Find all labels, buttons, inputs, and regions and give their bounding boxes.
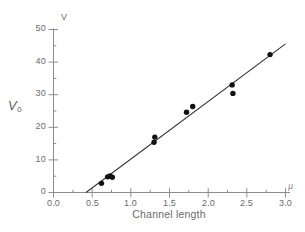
y-tick-label: 10 [28,154,46,164]
data-point [190,104,195,109]
y-axis-unit-label: V [61,12,67,22]
y-axis-title-main: V [8,98,17,113]
x-tick-label: 0.0 [41,198,66,208]
data-point [151,140,156,145]
x-tick-label: 2.0 [196,198,221,208]
data-point [184,110,189,115]
y-axis-title-subscript: 0 [17,105,21,114]
data-point [230,91,235,96]
chart-figure: 0 10 20 30 40 50 0.0 0.5 1.0 1.5 2.0 2.5… [0,0,305,232]
data-point [152,134,157,139]
data-point [267,52,272,57]
data-point-group [99,52,273,186]
y-tick-label: 0 [28,186,46,196]
y-axis-title: V0 [8,98,21,113]
data-point [229,82,234,87]
x-tick-label: 1.0 [118,198,143,208]
x-tick-label: 3.0 [273,198,298,208]
linear-fit-line [86,44,286,193]
data-point [99,181,104,186]
y-tick-label: 50 [28,23,46,33]
y-tick-label: 40 [28,56,46,66]
x-tick-label: 2.5 [234,198,259,208]
y-axis [49,29,59,193]
x-tick-label: 0.5 [80,198,105,208]
x-axis-title: Channel length [53,208,285,220]
data-point [110,174,115,179]
y-tick-label: 30 [28,88,46,98]
x-axis-unit-label: µ [288,181,293,191]
x-tick-label: 1.5 [157,198,182,208]
y-tick-label: 20 [28,121,46,131]
